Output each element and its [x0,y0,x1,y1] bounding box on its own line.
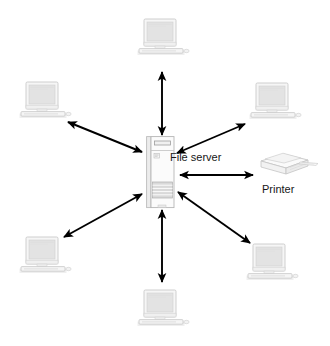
node-workstation-bottom-left[interactable] [20,237,72,273]
printer-label: Printer [262,184,294,195]
node-workstation-bottom[interactable] [138,290,190,326]
link-server-to-workstation-bottom-right [178,192,250,243]
node-workstation-top[interactable] [138,19,190,55]
network-diagram-canvas: File server Printer [0,0,330,346]
link-server-to-workstation-bottom-left [64,194,142,237]
diagram-svg [0,0,330,346]
link-server-to-workstation-top-right [177,124,245,153]
node-file-server[interactable] [147,137,174,208]
node-workstation-bottom-right[interactable] [247,244,299,280]
figure-caption [6,334,324,344]
node-workstation-top-right[interactable] [250,83,302,119]
node-workstation-top-left[interactable] [20,82,72,118]
link-server-to-workstation-top-left [68,122,142,152]
node-printer[interactable] [261,153,318,174]
file-server-label: File server [170,152,221,163]
